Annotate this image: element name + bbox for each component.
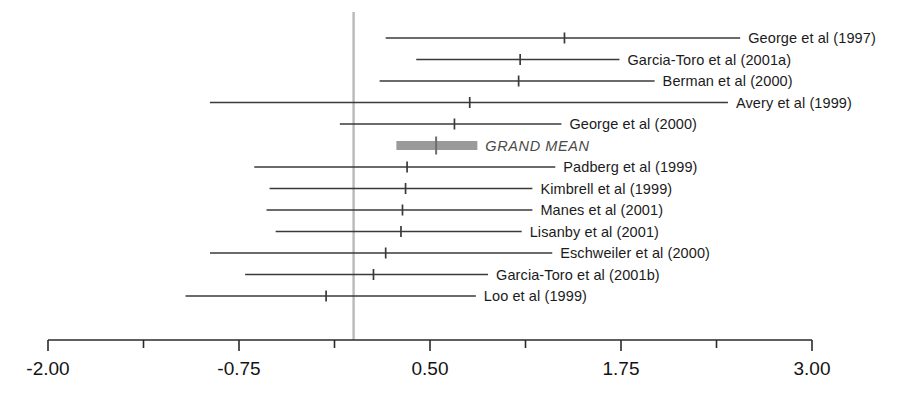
x-axis-tick-label: 1.75 [603,358,640,380]
study-label: Avery et al (1999) [736,95,852,111]
study-label: Lisanby et al (2001) [530,224,659,240]
study-label: Garcia-Toro et al (2001b) [496,267,660,283]
study-label: Garcia-Toro et al (2001a) [627,52,791,68]
study-label: Eschweiler et al (2000) [560,245,710,261]
study-label: Berman et al (2000) [663,73,793,89]
forest-plot: George et al (1997)Garcia-Toro et al (20… [0,0,908,396]
study-label: Padberg et al (1999) [563,159,697,175]
study-label: Kimbrell et al (1999) [540,181,672,197]
x-axis-tick-label: -2.00 [26,358,69,380]
x-axis-tick-label: -0.75 [217,358,260,380]
x-axis-tick-label: 0.50 [412,358,449,380]
study-label: GRAND MEAN [485,138,589,154]
study-label: George et al (1997) [748,30,876,46]
x-axis-group [48,340,812,351]
study-label: Manes et al (2001) [540,202,663,218]
study-label: Loo et al (1999) [484,288,587,304]
study-label: George et al (2000) [569,116,697,132]
x-axis-tick-label: 3.00 [794,358,831,380]
